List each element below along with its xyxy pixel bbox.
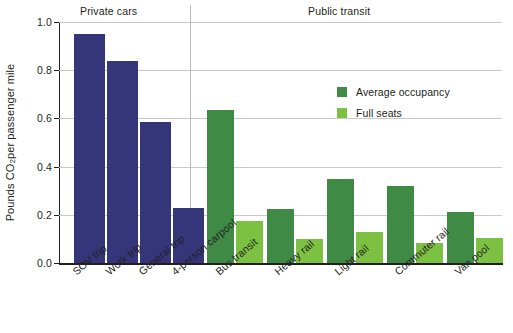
y-axis-tick-label: 0.4: [37, 161, 52, 172]
legend-swatch-full-seats: [337, 108, 347, 118]
y-axis-tick-label: 1.0: [37, 17, 52, 28]
legend-label-full-seats: Full seats: [356, 107, 402, 119]
legend-item-full-seats[interactable]: Full seats: [337, 105, 450, 121]
group-heading-public-transit: Public transit: [308, 5, 370, 17]
legend-item-average-occupancy[interactable]: Average occupancy: [337, 84, 450, 100]
y-axis-title-subscript: 2: [8, 159, 17, 164]
y-axis-tick-label: 0.8: [37, 65, 52, 76]
gridline: [59, 22, 502, 23]
bar[interactable]: [107, 61, 138, 263]
y-axis-tick-label: 0.0: [37, 258, 52, 269]
y-axis-tick-mark: [54, 167, 59, 168]
y-axis-tick-label: 0.2: [37, 210, 52, 221]
y-axis-tick-mark: [54, 70, 59, 71]
legend: Average occupancy Full seats: [337, 84, 450, 126]
y-axis-tick-mark: [54, 22, 59, 23]
y-axis-title-prefix: Pounds CO: [4, 164, 16, 222]
bar[interactable]: [74, 34, 105, 263]
legend-label-average-occupancy: Average occupancy: [356, 86, 450, 98]
plot-area: 0.00.20.40.60.81.0: [59, 22, 502, 263]
bar[interactable]: [327, 179, 354, 263]
co2-per-passenger-mile-bar-chart: Pounds CO2 per passenger mile 0.00.20.40…: [0, 0, 513, 333]
y-axis-tick-mark: [54, 263, 59, 264]
y-axis-tick-mark: [54, 215, 59, 216]
y-axis-tick-mark: [54, 118, 59, 119]
y-axis-title-suffix: per passenger mile: [4, 64, 16, 159]
y-axis-tick-label: 0.6: [37, 113, 52, 124]
group-heading-private-cars: Private cars: [80, 5, 137, 17]
y-axis-title: Pounds CO2 per passenger mile: [2, 22, 18, 263]
legend-swatch-average-occupancy: [337, 87, 347, 97]
